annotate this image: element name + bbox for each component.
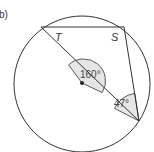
edge-angle-label: 47°	[114, 98, 129, 109]
label-S: S	[111, 31, 119, 43]
label-T: T	[55, 31, 63, 43]
center-point	[80, 81, 84, 85]
circle-diagram: T S 160° 47°	[0, 0, 154, 152]
center-angle-label: 160°	[80, 69, 101, 80]
